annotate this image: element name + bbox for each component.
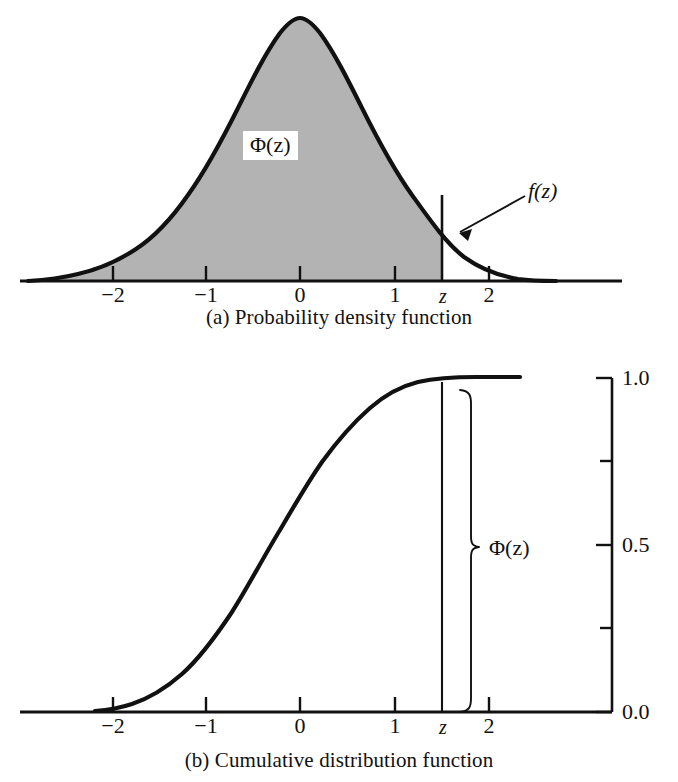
caption-panel-a: (a) Probability density function [0, 305, 678, 330]
cdf-x-ticks [113, 697, 489, 712]
panel-cumulative-distribution: −2 −1 0 1 z 2 1.0 0.5 0.0 Φ(z) [0, 340, 678, 782]
cdf-y-ticks [596, 378, 612, 712]
cdf-xtick-label-pos1: 1 [390, 713, 401, 739]
pdf-area-label: Φ(z) [243, 131, 298, 160]
cdf-xtick-label-z: z [439, 716, 447, 739]
cdf-xtick-label-neg2: −2 [101, 713, 124, 739]
pdf-curve-label: f(z) [528, 178, 557, 204]
cdf-xtick-label-zero: 0 [295, 713, 306, 739]
panel-probability-density: −2 −1 0 1 z 2 Φ(z) f(z) [0, 0, 678, 340]
figure-container: −2 −1 0 1 z 2 Φ(z) f(z) (a) Probability … [0, 0, 678, 782]
cdf-brace-label: Φ(z) [489, 535, 530, 561]
pdf-shaded-area [28, 18, 442, 281]
cdf-ytick-label-1-0: 1.0 [622, 365, 650, 391]
cdf-xtick-label-neg1: −1 [194, 713, 217, 739]
cdf-ytick-label-0-0: 0.0 [622, 699, 650, 725]
cdf-xtick-label-pos2: 2 [484, 713, 495, 739]
cdf-ytick-label-0-5: 0.5 [622, 532, 650, 558]
caption-panel-b: (b) Cumulative distribution function [0, 748, 678, 773]
fz-callout-arrow [459, 196, 525, 241]
cdf-curve [95, 377, 520, 711]
cdf-brace [460, 390, 479, 712]
